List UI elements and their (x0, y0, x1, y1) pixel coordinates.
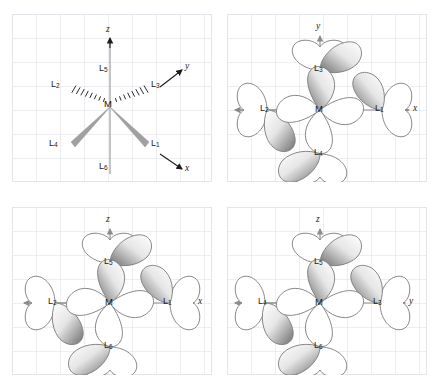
panel-yz-graphic (227, 207, 427, 375)
panel3-ligand-L5: L5 (104, 257, 113, 267)
panel4-ligand-L3: L3 (373, 297, 382, 307)
orbital-figure: M z y x L5 L6 L2 L3 L4 L1 (0, 0, 442, 390)
panel-xy-graphic (227, 14, 427, 182)
panel1-ligand-L5: L5 (99, 64, 108, 74)
panel2-ligand-L2: L2 (260, 104, 269, 114)
panel-geometry: M z y x L5 L6 L2 L3 L4 L1 (12, 14, 212, 182)
panel3-axis-x-label: x (198, 297, 202, 307)
panel2-center-label: M (315, 104, 323, 114)
panel2-ligand-L4: L4 (314, 148, 323, 158)
panel1-axis-x-label: x (185, 164, 189, 174)
panel3-ligand-L1: L1 (163, 297, 172, 307)
panel3-axis-z-label: z (106, 215, 110, 225)
panel3-center-label: M (105, 297, 113, 307)
panel1-ligand-L3: L3 (151, 80, 160, 90)
panel1-ligand-L2: L2 (51, 80, 60, 90)
panel1-ligand-L4: L4 (49, 139, 58, 149)
panel2-ligand-L1: L1 (375, 104, 384, 114)
panel1-axis-z-label: z (106, 25, 110, 35)
panel-xz: M z x L1 L2 L5 L6 (12, 207, 212, 375)
panel3-ligand-L2: L2 (48, 297, 57, 307)
panel1-ligand-L1: L1 (151, 139, 160, 149)
panel-geometry-graphic (12, 14, 212, 182)
panel1-axis-y-label: y (185, 62, 189, 72)
panel4-ligand-L4: L4 (258, 297, 267, 307)
panel4-axis-z-label: z (316, 215, 320, 225)
panel4-ligand-L6: L6 (314, 341, 323, 351)
panel4-ligand-L5: L5 (314, 257, 323, 267)
panel4-axis-y-label: y (409, 297, 413, 307)
panel2-axis-x-label: x (413, 104, 417, 114)
panel3-ligand-L6: L6 (104, 341, 113, 351)
panel1-center-label: M (104, 99, 112, 109)
panel-yz: M z y L3 L4 L5 L6 (227, 207, 427, 375)
panel2-axis-y-label: y (316, 22, 320, 32)
panel1-ligand-L6: L6 (99, 162, 108, 172)
panel4-center-label: M (315, 297, 323, 307)
panel-xy: M y x L1 L2 L3 L4 (227, 14, 427, 182)
panel2-ligand-L3: L3 (314, 64, 323, 74)
